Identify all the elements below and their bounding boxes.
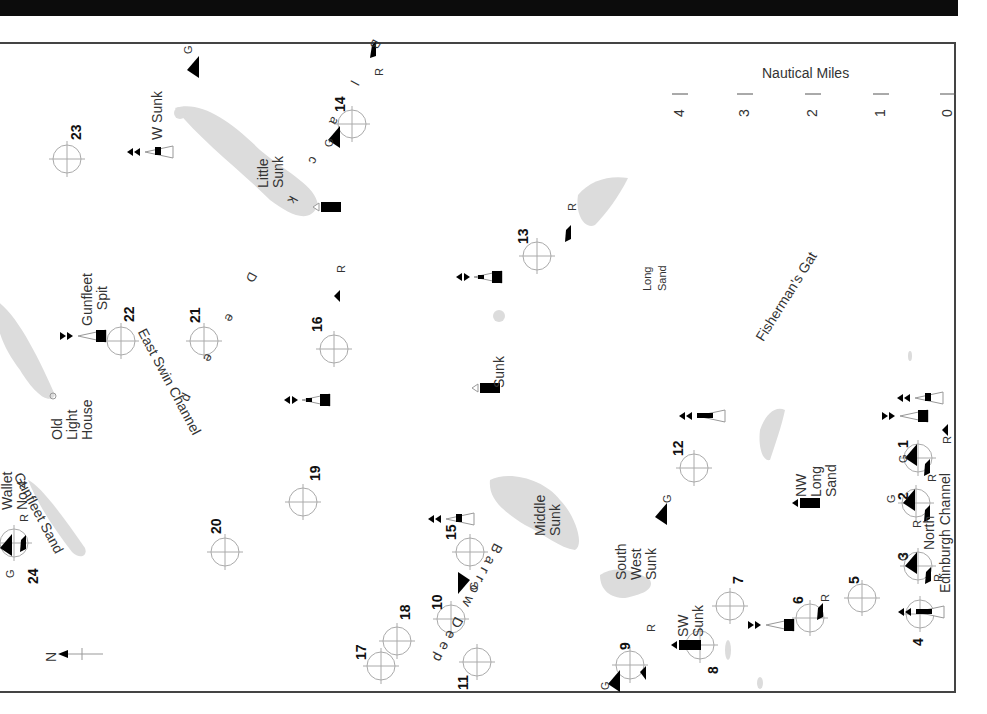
green-marker-letter: G: [598, 681, 613, 690]
waypoint-11: 11: [456, 675, 471, 690]
edinburgh-channel-label: Edinburgh Channel: [938, 473, 953, 593]
green-marker-letter: G: [896, 454, 911, 463]
red-marker-letter: R: [372, 68, 387, 76]
red-marker-letter: R: [565, 203, 580, 211]
scale-tick-0: 0: [940, 109, 955, 117]
waypoint-18: 18: [398, 604, 413, 620]
nw-long-sand-label: NW Long Sand: [794, 457, 839, 497]
waypoint-4: 4: [911, 638, 926, 646]
waypoint-23: 23: [69, 124, 84, 140]
sw-sunk-label: SW Sunk: [676, 597, 706, 637]
gunfleet-sand-bank-north: [0, 300, 55, 399]
green-marker-letter: G: [3, 569, 18, 578]
waypoint-15: 15: [444, 524, 459, 540]
waypoint-21: 21: [188, 307, 203, 323]
north-label: N: [44, 652, 59, 662]
sandbanks: [0, 106, 912, 689]
south-west-sunk-label: South West Sunk: [614, 540, 659, 580]
scale-title: Nautical Miles: [762, 66, 849, 81]
waypoint-9: 9: [618, 642, 633, 650]
red-marker-letter: R: [334, 265, 349, 273]
waypoint-10: 10: [430, 594, 445, 610]
waypoint-7: 7: [731, 576, 746, 584]
waypoint-17: 17: [354, 644, 369, 660]
waypoint-16: 16: [310, 316, 325, 332]
long-sand-bank-south: [759, 409, 785, 460]
waypoint-22: 22: [122, 306, 137, 322]
old-lighthouse-label: Old Light House: [50, 386, 95, 440]
waypoint-5: 5: [847, 576, 862, 584]
scale-tick-1: 1: [873, 109, 888, 117]
green-marker-letter: G: [896, 552, 911, 561]
w-sunk-label: W Sunk: [150, 91, 165, 140]
scale-tick-2: 2: [805, 109, 820, 117]
waypoint-19: 19: [308, 465, 323, 481]
sunk-label: Sunk: [492, 356, 507, 388]
waypoint-6: 6: [791, 596, 806, 604]
waypoint-1: 1: [896, 440, 911, 448]
red-marker-letter: R: [940, 436, 955, 444]
waypoint-24: 24: [26, 568, 41, 584]
green-marker-letter: G: [181, 45, 196, 54]
gunfleet-spit-label: Gunfleet Spit: [80, 286, 110, 326]
waypoint-8: 8: [706, 666, 721, 674]
long-sand-bank-north: [577, 177, 628, 226]
green-marker-letter: G: [660, 494, 675, 503]
red-marker-letter: R: [17, 514, 32, 522]
green-marker-letter: G: [884, 494, 899, 503]
scale-tick-3: 3: [737, 109, 752, 117]
north-arrow-icon: [58, 648, 103, 660]
waypoint-12: 12: [671, 440, 686, 456]
red-marker-letter: R: [644, 624, 659, 632]
waypoint-13: 13: [516, 228, 531, 244]
north-label-text: North: [922, 516, 937, 550]
red-marker-letter: R: [818, 594, 833, 602]
long-sand-label: Long Sand: [640, 261, 670, 291]
little-sunk-bank-label: Little Sunk: [256, 150, 286, 188]
middle-sunk-label: Middle Sunk: [533, 496, 563, 536]
waypoint-20: 20: [209, 518, 224, 534]
scale-tick-4: 4: [672, 109, 687, 117]
